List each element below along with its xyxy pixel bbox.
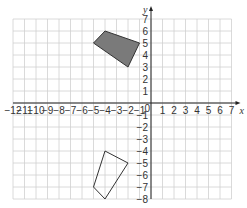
y-tick-label: −3 (137, 134, 149, 145)
y-axis-label: y (142, 4, 148, 15)
x-tick-label: −2 (122, 105, 134, 116)
x-tick-label: 7 (229, 105, 235, 116)
x-tick-label: −9 (42, 105, 54, 116)
x-tick-label: 3 (183, 105, 189, 116)
x-axis-label: x (239, 105, 245, 116)
y-tick-label: 4 (142, 50, 148, 61)
y-tick-label: −8 (137, 194, 149, 205)
x-tick-label: −7 (65, 105, 77, 116)
y-tick-label: −5 (137, 158, 149, 169)
origin-label: 0 (144, 103, 150, 114)
y-tick-label: 6 (142, 26, 148, 37)
y-tick-label: −2 (137, 122, 149, 133)
x-tick-label: −4 (99, 105, 111, 116)
x-tick-label: 1 (160, 105, 166, 116)
coordinate-grid: −12−11−10−9−8−7−6−5−4−3−2−11234567765432… (0, 0, 247, 208)
y-tick-label: 3 (142, 62, 148, 73)
y-tick-label: 1 (142, 86, 148, 97)
x-tick-label: −8 (53, 105, 65, 116)
x-tick-label: 5 (206, 105, 212, 116)
y-tick-label: −4 (137, 146, 149, 157)
y-tick-label: −7 (137, 182, 149, 193)
y-tick-label: −6 (137, 170, 149, 181)
x-tick-label: −3 (111, 105, 123, 116)
x-tick-label: 2 (171, 105, 177, 116)
x-tick-label: 4 (194, 105, 200, 116)
x-tick-label: −6 (76, 105, 88, 116)
y-axis-arrow-icon (149, 6, 153, 11)
y-tick-label: 7 (142, 14, 148, 25)
x-tick-label: 6 (217, 105, 223, 116)
y-tick-label: 5 (142, 38, 148, 49)
x-tick-label: −5 (88, 105, 100, 116)
y-tick-label: 2 (142, 74, 148, 85)
